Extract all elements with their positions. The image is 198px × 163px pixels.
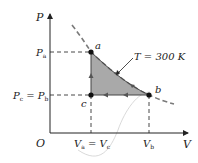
point-b-label: b [155, 84, 161, 95]
tick-va-vc: Va = Vc [74, 138, 111, 150]
point-a [88, 49, 93, 54]
point-c [88, 92, 93, 97]
point-c-label: c [81, 98, 87, 109]
isotherm-leader [118, 58, 133, 73]
point-a-label: a [95, 40, 101, 51]
point-b [146, 92, 151, 97]
pv-diagram: P V O a b c Pa Pc = Pb Va = Vc Vb T = 30… [0, 0, 198, 163]
v-axis-label: V [183, 138, 192, 151]
tick-pc-pb: Pc = Pb [12, 90, 49, 102]
origin-label: O [36, 137, 45, 150]
isotherm-label: T = 300 K [134, 51, 186, 62]
tick-pa: Pa [35, 47, 47, 59]
p-axis-label: P [35, 11, 44, 24]
tick-vb: Vb [143, 138, 154, 150]
